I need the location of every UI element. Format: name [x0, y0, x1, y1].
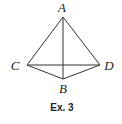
- segment-ad: [63, 17, 100, 65]
- segment-ac: [27, 17, 63, 65]
- tetrahedron-diagram: A B C D Ex. 3: [0, 0, 122, 124]
- segments: [27, 17, 100, 79]
- figure-caption: Ex. 3: [50, 102, 74, 113]
- label-a: A: [57, 0, 66, 15]
- label-b: B: [59, 81, 67, 96]
- segment-cb: [27, 65, 63, 79]
- segment-bd: [63, 65, 100, 79]
- label-d: D: [103, 58, 114, 73]
- figure-canvas: A B C D Ex. 3: [0, 0, 122, 124]
- label-c: C: [11, 58, 20, 73]
